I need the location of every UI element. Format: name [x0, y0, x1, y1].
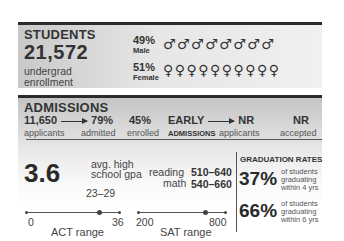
admitted-value: 79% — [91, 114, 113, 126]
act-min-dot — [25, 211, 28, 214]
applicants-row: 11,65079% — [24, 114, 113, 126]
act-range-label: ACT range — [51, 226, 104, 238]
enrolled-label: enrolled — [127, 128, 159, 138]
applicants-value: 11,650 — [24, 114, 57, 126]
male-label: Male — [133, 46, 150, 55]
sat-math-label: math — [163, 177, 186, 189]
early-accepted-label: accepted — [280, 128, 317, 138]
students-header: STUDENTS — [24, 27, 96, 42]
divider — [26, 139, 322, 140]
sat-math-value: 540–660 — [191, 178, 232, 190]
admitted-label: admitted — [81, 128, 116, 138]
enrollment-label-2: enrollment — [24, 76, 73, 88]
sat-range-bar — [138, 212, 226, 213]
female-label: Female — [133, 73, 159, 82]
sat-marker-dot — [203, 210, 208, 215]
act-range-value: 23–29 — [86, 187, 115, 199]
early-value: EARLY — [168, 114, 204, 126]
vertical-divider — [236, 152, 237, 232]
grad-rate-4yr: 37% — [239, 168, 277, 190]
applicants-label: applicants — [24, 128, 65, 138]
sat-min-dot — [137, 211, 140, 214]
sat-range-label: SAT range — [160, 226, 212, 238]
admissions-panel: ADMISSIONS 11,65079% applicants admitted… — [18, 95, 322, 241]
early-applicants-value: NR — [238, 114, 254, 126]
early-accepted-value: NR — [293, 114, 309, 126]
act-max: 36 — [112, 216, 124, 228]
early-label: ADMISSIONS — [168, 129, 216, 138]
grad-rate-4yr-line3: within 4 yrs — [281, 184, 319, 193]
gpa-label-2: school gpa — [91, 168, 142, 180]
admissions-header: ADMISSIONS — [24, 100, 108, 115]
female-symbol-icon: ♀♀♀♀♀♀♀♀♀♀ — [163, 62, 281, 78]
sat-max-dot — [224, 211, 227, 214]
grad-rate-6yr: 66% — [239, 200, 277, 222]
enrollment-count: 21,572 — [24, 41, 88, 64]
sat-reading-value: 510–640 — [191, 166, 232, 178]
act-marker-dot — [97, 210, 102, 215]
female-pct: 51% — [133, 61, 155, 73]
arrow-right-icon — [208, 121, 234, 122]
arrow-right-icon — [61, 121, 87, 122]
graduation-header: GRADUATION RATES — [240, 155, 322, 164]
enrolled-value: 45% — [129, 114, 151, 126]
sat-max: 800 — [209, 216, 227, 228]
grad-rate-6yr-line3: within 6 yrs — [281, 216, 319, 225]
act-max-dot — [118, 211, 121, 214]
students-panel: STUDENTS 21,572 undergrad enrollment 49%… — [18, 22, 322, 88]
male-pct: 49% — [133, 34, 155, 46]
male-symbol-icon: ♂♂♂♂♂♂♂♂ — [163, 36, 275, 52]
act-min: 0 — [28, 216, 34, 228]
act-range-bar — [26, 212, 120, 213]
early-row: EARLYNR — [168, 114, 254, 126]
sat-min: 200 — [136, 216, 154, 228]
gpa-value: 3.6 — [24, 158, 60, 189]
early-applicants-label: applicants — [219, 128, 260, 138]
